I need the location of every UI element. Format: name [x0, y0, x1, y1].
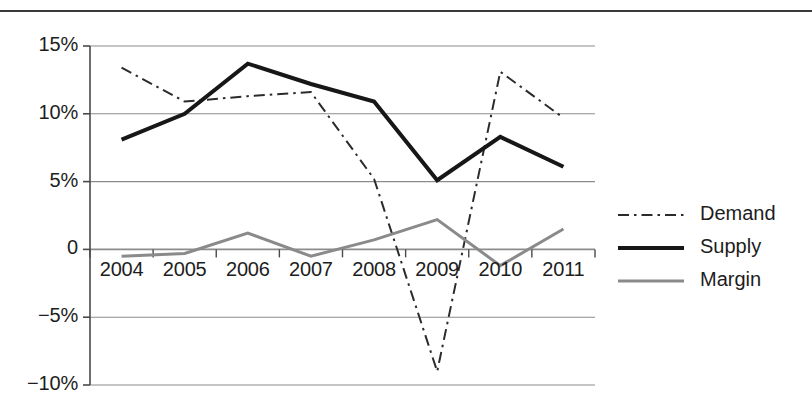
y-tick-label: 5% [49, 169, 78, 192]
line-chart-plot [0, 0, 812, 420]
y-tick-label: 15% [39, 33, 78, 56]
x-tick-label: 2010 [469, 258, 532, 281]
legend-label-supply: Supply [700, 235, 761, 258]
x-tick-label: 2009 [406, 258, 469, 281]
y-tick-label: 10% [39, 101, 78, 124]
chart-figure: 15%10%5%0−5%−10% 20042005200620072008200… [0, 0, 812, 420]
legend-label-margin: Margin [700, 268, 761, 291]
y-tick-marks-group [83, 46, 90, 385]
gridlines-group [90, 46, 595, 385]
x-tick-label: 2004 [90, 258, 153, 281]
legend-label-demand: Demand [700, 202, 776, 225]
x-tick-label: 2007 [279, 258, 342, 281]
y-tick-label: −10% [27, 372, 78, 395]
data-series-group [122, 64, 564, 372]
x-tick-label: 2006 [216, 258, 279, 281]
x-tick-label: 2005 [153, 258, 216, 281]
y-tick-label: −5% [38, 304, 78, 327]
x-tick-label: 2011 [532, 258, 595, 281]
x-tick-label: 2008 [343, 258, 406, 281]
y-tick-label: 0 [67, 236, 78, 259]
legend-swatches-group [618, 215, 684, 281]
series-line-supply [122, 64, 564, 181]
